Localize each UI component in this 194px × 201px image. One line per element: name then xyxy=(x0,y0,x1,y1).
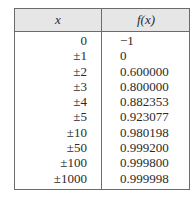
cell-x: ±1 xyxy=(73,48,87,63)
cell-x: ±2 xyxy=(73,64,87,79)
cell-fx: 0.882353 xyxy=(120,94,169,109)
cell-x: 0 xyxy=(81,33,88,48)
cell-fx: 0.999998 xyxy=(120,171,169,186)
cell-fx: −1 xyxy=(120,33,134,48)
table-row: ±10 0.980198 xyxy=(15,125,189,140)
table-row: ±3 0.800000 xyxy=(15,79,189,94)
cell-fx: 0 xyxy=(120,48,127,63)
values-table: x f(x) 0 −1 ±1 0 ±2 0.600000 ±3 0.800000… xyxy=(14,8,190,190)
cell-fx: 0.980198 xyxy=(120,125,169,140)
table-header: x f(x) xyxy=(15,9,189,32)
table-row: ±1 0 xyxy=(15,48,189,63)
cell-fx: 0.923077 xyxy=(120,109,169,124)
cell-x: ±4 xyxy=(73,94,87,109)
table-row: ±1000 0.999998 xyxy=(15,171,189,186)
cell-x: ±100 xyxy=(60,155,87,170)
table-row: ±2 0.600000 xyxy=(15,64,189,79)
table-row: ±50 0.999200 xyxy=(15,140,189,155)
cell-fx: 0.600000 xyxy=(120,64,169,79)
cell-x: ±5 xyxy=(73,109,87,124)
table-row: 0 −1 xyxy=(15,33,189,48)
cell-x: ±1000 xyxy=(54,171,87,186)
table-body: 0 −1 ±1 0 ±2 0.600000 ±3 0.800000 ±4 0.8… xyxy=(15,33,189,186)
header-fx: f(x) xyxy=(102,9,190,31)
cell-x: ±3 xyxy=(73,79,87,94)
table-row: ±4 0.882353 xyxy=(15,94,189,109)
cell-x: ±10 xyxy=(67,125,87,140)
header-x: x xyxy=(15,9,101,31)
cell-fx: 0.999200 xyxy=(120,140,169,155)
cell-fx: 0.800000 xyxy=(120,79,169,94)
table-row: ±5 0.923077 xyxy=(15,109,189,124)
cell-x: ±50 xyxy=(67,140,87,155)
cell-fx: 0.999800 xyxy=(120,155,169,170)
table-row: ±100 0.999800 xyxy=(15,155,189,170)
